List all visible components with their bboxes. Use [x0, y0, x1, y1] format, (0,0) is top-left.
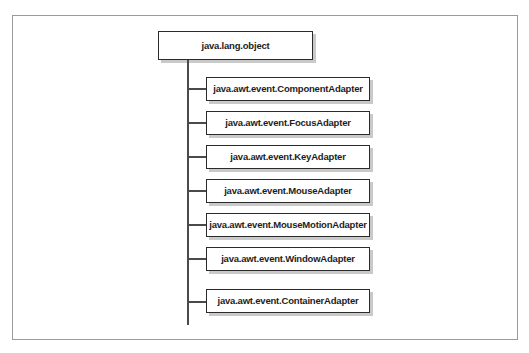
node-label: java.lang.object — [201, 41, 269, 51]
node-mouse-motion-adapter[interactable]: java.awt.event.MouseMotionAdapter — [206, 213, 370, 237]
node-label: java.awt.event.WindowAdapter — [221, 254, 355, 264]
connector-stub-6 — [187, 258, 206, 260]
node-label: java.awt.event.KeyAdapter — [230, 152, 345, 162]
connector-stub-4 — [187, 190, 206, 192]
node-label: java.awt.event.FocusAdapter — [225, 118, 351, 128]
node-window-adapter[interactable]: java.awt.event.WindowAdapter — [206, 247, 370, 271]
node-mouse-adapter[interactable]: java.awt.event.MouseAdapter — [206, 179, 370, 203]
connector-stub-7 — [187, 301, 206, 303]
node-focus-adapter[interactable]: java.awt.event.FocusAdapter — [206, 111, 370, 135]
connector-stub-3 — [187, 156, 206, 158]
node-label: java.awt.event.ContainerAdapter — [217, 296, 358, 306]
class-hierarchy-diagram: java.lang.object java.awt.event.Componen… — [0, 0, 529, 353]
node-component-adapter[interactable]: java.awt.event.ComponentAdapter — [206, 77, 370, 101]
node-container-adapter[interactable]: java.awt.event.ContainerAdapter — [206, 289, 370, 313]
connector-stub-1 — [187, 88, 206, 90]
node-label: java.awt.event.ComponentAdapter — [213, 84, 363, 94]
node-root-java-lang-object[interactable]: java.lang.object — [158, 31, 313, 60]
connector-trunk-line — [187, 60, 189, 325]
connector-stub-2 — [187, 122, 206, 124]
node-label: java.awt.event.MouseAdapter — [224, 186, 352, 196]
connector-stub-5 — [187, 224, 206, 226]
node-label: java.awt.event.MouseMotionAdapter — [209, 220, 367, 230]
node-key-adapter[interactable]: java.awt.event.KeyAdapter — [206, 145, 370, 169]
